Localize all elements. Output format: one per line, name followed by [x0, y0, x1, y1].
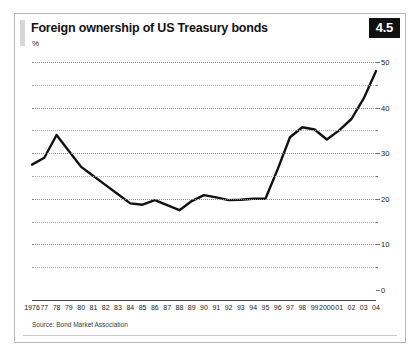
gridline [32, 108, 376, 109]
x-axis-tick-label: 88 [176, 304, 184, 311]
x-axis-tick-label: 96 [274, 304, 282, 311]
y-axis-tick-label: 20 [381, 194, 389, 203]
x-axis-tick-label: 95 [262, 304, 270, 311]
y-axis-tick [376, 199, 380, 200]
y-axis-tick [376, 290, 380, 291]
x-axis-tick-label: 01 [335, 304, 343, 311]
page-title: Foreign ownership of US Treasury bonds [31, 21, 268, 35]
x-axis-tick-label: 84 [126, 304, 134, 311]
y-axis-tick-label: 50 [381, 58, 389, 67]
x-axis-tick-label: 03 [360, 304, 368, 311]
gridline [32, 176, 376, 177]
x-axis-tick-label: 89 [188, 304, 196, 311]
y-axis-minor-tick [376, 85, 378, 86]
y-axis-tick [376, 153, 380, 154]
y-axis-tick-label: 40 [381, 103, 389, 112]
y-axis-unit-label: % [32, 39, 39, 48]
x-axis-tick-label: 85 [139, 304, 147, 311]
x-axis-tick-label: 1976 [24, 304, 40, 311]
gridline [32, 153, 376, 154]
footer-divider [23, 335, 397, 336]
x-axis-tick-label: 94 [249, 304, 257, 311]
y-axis-minor-tick [376, 267, 378, 268]
x-axis-tick-label: 02 [348, 304, 356, 311]
x-axis-tick-label: 2000 [319, 304, 335, 311]
y-axis-minor-tick [376, 222, 378, 223]
x-axis-tick-label: 80 [77, 304, 85, 311]
x-axis-tick-label: 87 [163, 304, 171, 311]
title-accent-bar [20, 20, 25, 46]
gridline [32, 130, 376, 131]
x-axis-baseline [32, 300, 376, 301]
y-axis-tick-label: 30 [381, 149, 389, 158]
x-axis-tick-label: 79 [65, 304, 73, 311]
x-axis-tick-label: 97 [286, 304, 294, 311]
x-axis-tick-labels: 1976777879808182838485868788899091929394… [32, 304, 376, 316]
x-axis-tick-label: 90 [200, 304, 208, 311]
figure-panel: Foreign ownership of US Treasury bonds %… [14, 13, 406, 343]
x-axis-tick-label: 82 [102, 304, 110, 311]
series-polyline [32, 71, 376, 210]
x-axis-tick-label: 77 [40, 304, 48, 311]
x-axis-tick-label: 78 [53, 304, 61, 311]
y-axis-tick-label: 0 [381, 286, 385, 295]
y-axis-minor-tick [376, 176, 378, 177]
y-axis-tick [376, 244, 380, 245]
x-axis-tick-label: 04 [372, 304, 380, 311]
x-axis-tick-label: 86 [151, 304, 159, 311]
y-axis-minor-tick [376, 130, 378, 131]
gridline [32, 222, 376, 223]
figure-number-badge: 4.5 [369, 18, 400, 38]
x-axis-tick-label: 91 [212, 304, 220, 311]
source-note: Source: Bond Market Association [32, 321, 128, 328]
gridline [32, 267, 376, 268]
plot-area [32, 62, 376, 290]
y-axis-tick [376, 108, 380, 109]
x-axis-tick-label: 98 [298, 304, 306, 311]
x-axis-tick-label: 99 [311, 304, 319, 311]
y-axis-tick [376, 62, 380, 63]
gridline [32, 199, 376, 200]
figure-header: Foreign ownership of US Treasury bonds %… [15, 14, 405, 58]
x-axis-tick-label: 93 [237, 304, 245, 311]
x-axis-tick-label: 92 [225, 304, 233, 311]
x-axis-tick-label: 83 [114, 304, 122, 311]
gridline [32, 62, 376, 63]
gridline [32, 244, 376, 245]
x-axis-tick-label: 81 [90, 304, 98, 311]
gridline [32, 85, 376, 86]
y-axis-tick-label: 10 [381, 240, 389, 249]
